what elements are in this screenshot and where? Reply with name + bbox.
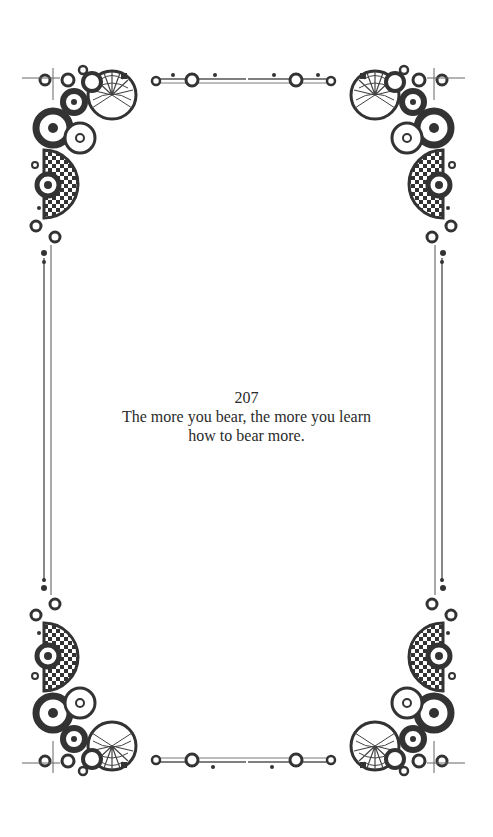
corner-ornament-top-left [22,66,160,256]
page-number: 207 [0,388,493,407]
quote-line: The more you bear, the more you learn [0,407,493,426]
corner-ornament-bottom-left [22,585,160,775]
corner-ornament-top-right [327,66,465,256]
corner-ornament-bottom-right [327,585,465,775]
quote: The more you bear, the more you learn ho… [0,407,493,445]
quote-line: how to bear more. [0,426,493,445]
